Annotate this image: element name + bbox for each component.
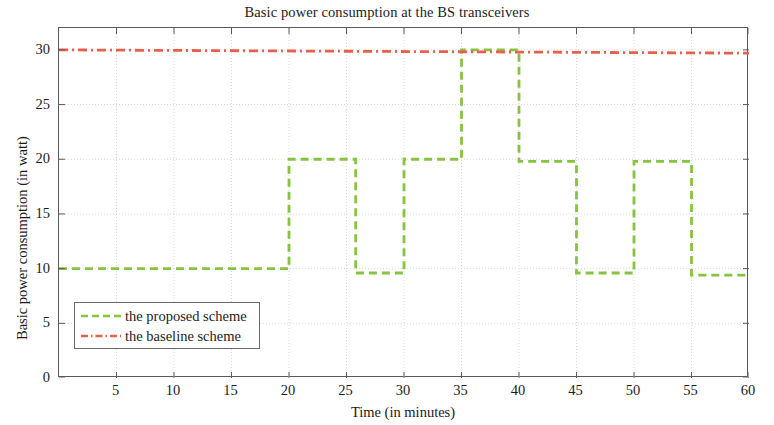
y-tick-label: 5 (20, 314, 50, 331)
x-tick-label: 60 (741, 382, 756, 399)
y-tick-label: 0 (20, 369, 50, 386)
x-tick-label: 35 (453, 382, 468, 399)
x-tick-label: 25 (338, 382, 353, 399)
x-tick-label: 55 (683, 382, 698, 399)
y-tick-label: 15 (20, 204, 50, 221)
series-line-proposed (59, 50, 749, 275)
y-tick-label: 25 (20, 95, 50, 112)
legend-swatch-proposed (80, 310, 122, 322)
legend-label-baseline: the baseline scheme (125, 329, 241, 344)
y-axis-label: Basic power consumption (in watt) (14, 136, 31, 340)
legend-item: the baseline scheme (80, 326, 253, 346)
x-axis-label: Time (in minutes) (58, 404, 748, 421)
x-tick-label: 20 (281, 382, 296, 399)
y-tick-label: 20 (20, 150, 50, 167)
x-tick-label: 5 (112, 382, 119, 399)
series-line-baseline (59, 50, 749, 53)
figure: Basic power consumption at the BS transc… (0, 0, 774, 425)
legend-label-proposed: the proposed scheme (125, 309, 247, 324)
x-tick-label: 10 (166, 382, 181, 399)
legend-item: the proposed scheme (80, 306, 253, 326)
x-tick-label: 45 (568, 382, 583, 399)
chart-title: Basic power consumption at the BS transc… (0, 4, 774, 21)
y-tick-label: 30 (20, 40, 50, 57)
x-tick-label: 15 (223, 382, 238, 399)
x-tick-label: 40 (511, 382, 526, 399)
legend: the proposed scheme the baseline scheme (74, 302, 260, 349)
x-tick-label: 30 (396, 382, 411, 399)
series-layer (59, 50, 749, 275)
x-tick-label: 50 (626, 382, 641, 399)
y-tick-label: 10 (20, 259, 50, 276)
legend-swatch-baseline (80, 330, 122, 342)
